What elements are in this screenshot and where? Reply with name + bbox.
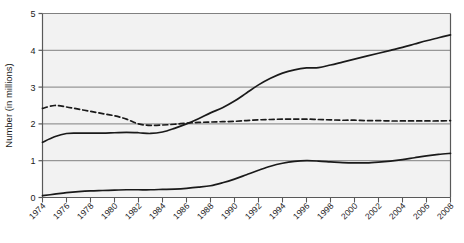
y-tick-label-4: 4 — [30, 46, 35, 56]
x-tick-label-2000: 2000 — [339, 201, 360, 222]
x-axis: 1974197619781980198219841986198819901992… — [27, 198, 456, 222]
x-tick-label-2006: 2006 — [411, 201, 432, 222]
x-tick-label-1980: 1980 — [99, 201, 120, 222]
x-tick-label-2008: 2008 — [435, 201, 456, 222]
x-tick-label-2004: 2004 — [387, 201, 408, 222]
x-tick-label-1990: 1990 — [219, 201, 240, 222]
plot-area-background — [43, 14, 451, 198]
line-chart: 012345Number (in millions)19741976197819… — [0, 0, 464, 243]
x-tick-label-1982: 1982 — [123, 201, 144, 222]
y-axis: 012345 — [30, 9, 42, 203]
chart-canvas: 012345Number (in millions)19741976197819… — [0, 0, 464, 243]
x-tick-label-1976: 1976 — [51, 201, 72, 222]
x-tick-label-1984: 1984 — [147, 201, 168, 222]
y-tick-label-0: 0 — [30, 193, 35, 203]
x-tick-label-1974: 1974 — [27, 201, 48, 222]
y-tick-label-5: 5 — [30, 9, 35, 19]
x-tick-label-1992: 1992 — [243, 201, 264, 222]
y-tick-label-3: 3 — [30, 83, 35, 93]
x-tick-label-1986: 1986 — [171, 201, 192, 222]
y-axis-title: Number (in millions) — [3, 63, 14, 147]
y-tick-label-2: 2 — [30, 119, 35, 129]
x-tick-label-2002: 2002 — [363, 201, 384, 222]
y-tick-label-1: 1 — [30, 156, 35, 166]
x-tick-label-1998: 1998 — [315, 201, 336, 222]
x-tick-label-1996: 1996 — [291, 201, 312, 222]
x-tick-label-1978: 1978 — [75, 201, 96, 222]
x-tick-label-1988: 1988 — [195, 201, 216, 222]
x-tick-label-1994: 1994 — [267, 201, 288, 222]
